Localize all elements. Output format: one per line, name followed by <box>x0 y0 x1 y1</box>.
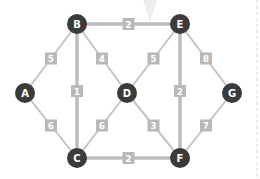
weight-label: 8 <box>203 54 209 64</box>
node-e: E <box>170 14 190 34</box>
node-label: F <box>177 153 184 164</box>
edge-weight-d-e: 5 <box>148 53 160 65</box>
weight-label: 5 <box>150 54 156 64</box>
edge-weight-b-e: 2 <box>123 18 135 30</box>
edge-weight-a-b: 5 <box>45 53 57 65</box>
weight-label: 3 <box>150 121 156 131</box>
edge-weight-b-d: 4 <box>96 53 108 65</box>
edge-weight-a-c: 6 <box>45 120 57 132</box>
node-label: C <box>73 153 80 164</box>
edge-weight-c-d: 6 <box>96 120 108 132</box>
graph-canvas: 562146253287 ABCDEFG <box>0 0 260 179</box>
weight-label: 5 <box>48 54 54 64</box>
node-label: B <box>73 19 81 30</box>
weight-label: 2 <box>177 87 183 97</box>
node-label: E <box>177 19 184 30</box>
node-a: A <box>15 83 35 103</box>
pointer-triangle-icon <box>143 0 157 22</box>
edge-weight-e-f: 2 <box>174 85 186 97</box>
nodes-layer: ABCDEFG <box>15 14 242 168</box>
node-f: F <box>170 148 190 168</box>
node-c: C <box>67 148 87 168</box>
edge-weight-c-f: 2 <box>123 152 135 164</box>
weight-label: 2 <box>125 20 131 30</box>
weight-label: 6 <box>48 121 54 131</box>
weight-label: 2 <box>125 154 131 164</box>
weight-label: 7 <box>203 121 209 131</box>
weight-label: 6 <box>99 121 105 131</box>
edge-weight-e-g: 8 <box>200 53 212 65</box>
edge-weight-f-g: 7 <box>200 120 212 132</box>
node-label: A <box>21 88 29 99</box>
node-b: B <box>67 14 87 34</box>
node-g: G <box>222 83 242 103</box>
edge-weight-b-c: 1 <box>71 85 83 97</box>
edge-weight-d-f: 3 <box>148 120 160 132</box>
weight-label: 4 <box>99 54 105 64</box>
node-label: D <box>123 88 131 99</box>
node-d: D <box>117 83 137 103</box>
weight-label: 1 <box>74 87 80 97</box>
node-label: G <box>228 88 236 99</box>
